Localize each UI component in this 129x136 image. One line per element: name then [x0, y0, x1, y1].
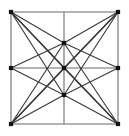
diagonal-edge-bl-bm [11, 95, 64, 124]
diagonal-edge-br-c [64, 68, 118, 124]
vertex-bottom-middle [62, 93, 66, 97]
vertex-bottom-left [9, 122, 13, 126]
vertex-bottom-right [116, 122, 120, 126]
vertex-top-left [9, 10, 13, 14]
vertex-center [62, 66, 66, 70]
diagonal-edge-br-bm [64, 95, 118, 124]
diagram-canvas [0, 0, 129, 136]
vertex-top-right [116, 10, 120, 14]
vertex-left-middle [9, 66, 13, 70]
graph-figure [0, 0, 129, 136]
diagonal-edge-tl-tm [11, 12, 64, 43]
diagonal-edge-tr-tm [64, 12, 118, 43]
vertex-right-middle [116, 66, 120, 70]
diagonal-edge-bl-c [11, 68, 64, 124]
vertex-top-middle [62, 41, 66, 45]
